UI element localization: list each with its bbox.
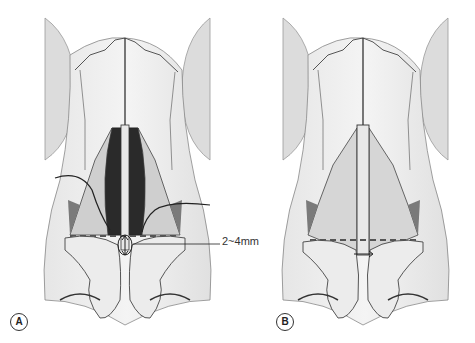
panel-label-a: A (10, 313, 28, 331)
panel-b (238, 0, 475, 343)
panel-a: A (0, 0, 237, 343)
panel-label-b: B (276, 313, 294, 331)
nose-illustration-b (238, 0, 475, 343)
nose-illustration-a (0, 0, 237, 343)
